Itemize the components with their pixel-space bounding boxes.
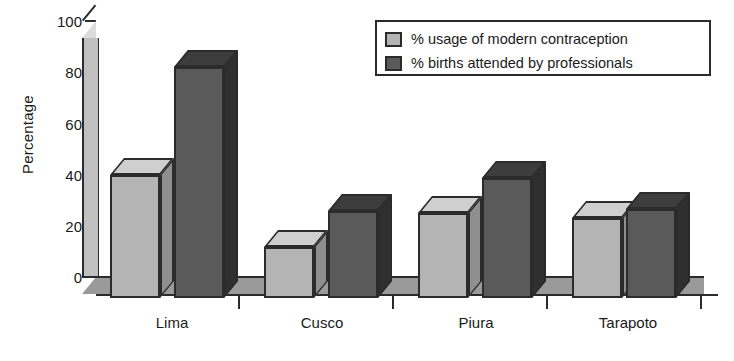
y-tick-label-20: 20	[65, 218, 82, 235]
y-tick-label-0: 0	[74, 269, 82, 286]
bar-front-face	[572, 218, 622, 298]
bar-front-face	[626, 209, 676, 298]
bar-front-face	[264, 247, 314, 298]
y-tick-label-40: 40	[65, 167, 82, 184]
x-axis-label-piura: Piura	[458, 314, 493, 331]
x-tick-mark-4	[700, 296, 702, 309]
y-tick-label-60: 60	[65, 116, 82, 133]
x-tick-mark-1	[238, 296, 240, 309]
bar-lima-births	[174, 67, 224, 298]
bar-cusco-usage	[264, 247, 314, 298]
chart-legend: % usage of modern contraception % births…	[375, 20, 711, 76]
bar-front-face	[418, 213, 468, 298]
bar-tarapoto-births	[626, 209, 676, 298]
bar-side-face	[532, 161, 546, 298]
axis-wall-top-edge	[82, 5, 96, 22]
axis-wall-front	[82, 38, 99, 294]
bar-tarapoto-usage	[572, 218, 622, 298]
bar-front-face	[110, 175, 160, 298]
x-tick-mark-2	[392, 296, 394, 309]
bar-side-face	[378, 194, 392, 298]
bar-chart: Percentage 100 80 60 40 20 0	[0, 0, 734, 361]
bar-front-face	[174, 67, 224, 298]
bar-side-face	[676, 192, 690, 298]
bar-piura-births	[482, 178, 532, 298]
y-tick-label-80: 80	[65, 64, 82, 81]
bar-front-face	[328, 211, 378, 298]
bar-cusco-births	[328, 211, 378, 298]
legend-swatch-usage-icon	[385, 32, 402, 47]
legend-swatch-births-icon	[385, 56, 402, 71]
bar-side-face	[160, 158, 174, 298]
axis-wall-top	[82, 21, 96, 38]
bar-lima-usage	[110, 175, 160, 298]
y-axis-title: Percentage	[19, 60, 36, 210]
bar-side-face	[468, 196, 482, 298]
bar-front-face	[482, 178, 532, 298]
y-tick-label-100: 100	[57, 13, 82, 30]
x-tick-mark-3	[546, 296, 548, 309]
y-axis-tick-labels: 100 80 60 40 20 0	[38, 0, 82, 361]
x-axis-label-cusco: Cusco	[301, 314, 344, 331]
legend-item-usage: % usage of modern contraception	[385, 27, 701, 51]
bar-piura-usage	[418, 213, 468, 298]
bar-side-face	[224, 50, 238, 298]
x-axis-label-lima: Lima	[156, 314, 189, 331]
legend-label-usage: % usage of modern contraception	[411, 32, 628, 47]
legend-item-births: % births attended by professionals	[385, 51, 701, 75]
x-axis-label-tarapoto: Tarapoto	[599, 314, 657, 331]
legend-label-births: % births attended by professionals	[411, 56, 633, 71]
